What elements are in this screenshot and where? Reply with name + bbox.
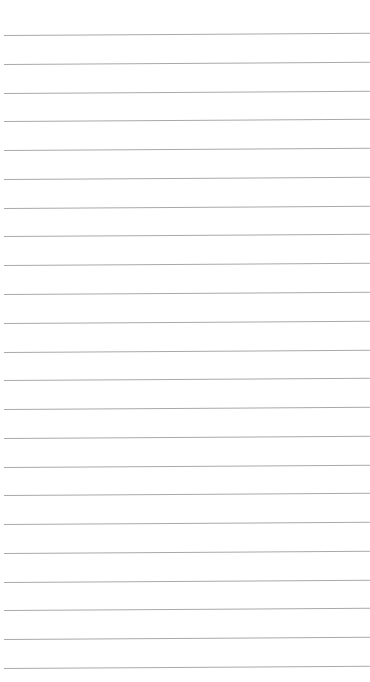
ruled-line — [4, 177, 370, 180]
ruled-line — [4, 234, 370, 237]
ruled-line — [4, 436, 370, 439]
ruled-line — [4, 350, 370, 353]
ruled-line — [4, 666, 370, 669]
ruled-line — [4, 378, 370, 381]
ruled-line — [4, 91, 370, 94]
ruled-line — [4, 292, 370, 295]
ruled-line — [4, 407, 370, 410]
ruled-line — [4, 263, 370, 266]
ruled-line — [4, 119, 370, 122]
ruled-line — [4, 551, 370, 554]
ruled-line — [4, 522, 370, 525]
ruled-line — [4, 580, 370, 583]
ruled-line — [4, 608, 370, 611]
ruled-line — [4, 148, 370, 151]
ruled-line — [4, 206, 370, 209]
ruled-line — [4, 637, 370, 640]
ruled-line — [4, 62, 370, 65]
ruled-line — [4, 33, 370, 36]
ruled-line — [4, 321, 370, 324]
ruled-line — [4, 465, 370, 468]
ruled-line — [4, 493, 370, 496]
